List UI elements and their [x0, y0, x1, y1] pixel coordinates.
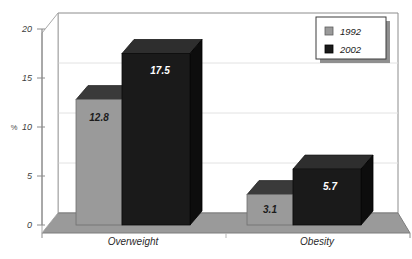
plot-left-wall — [42, 13, 58, 233]
value-label-obesity-1992: 3.1 — [263, 204, 277, 215]
value-label-overweight-1992: 12.8 — [89, 112, 109, 123]
bar-top-face — [293, 155, 373, 169]
y-tick-label-5: 5 — [27, 171, 33, 181]
legend-item-2002[interactable]: 2002 — [325, 44, 362, 55]
legend[interactable]: 1992 2002 — [316, 17, 390, 63]
bar-top-face — [122, 40, 202, 54]
bar-front-face — [122, 54, 190, 226]
value-label-overweight-2002: 17.5 — [150, 65, 170, 76]
legend-label-2002: 2002 — [339, 44, 362, 55]
legend-label-1992: 1992 — [340, 26, 362, 37]
y-axis-title: % — [11, 123, 18, 132]
legend-swatch-icon — [325, 45, 333, 53]
bar-front-face — [293, 169, 361, 225]
y-tick-label-15: 15 — [22, 73, 33, 83]
legend-item-1992[interactable]: 1992 — [325, 26, 362, 37]
chart-canvas: 20 15 10 5 0 % — [0, 0, 412, 259]
y-tick-label-10: 10 — [22, 122, 32, 132]
x-axis-ticks — [42, 233, 410, 238]
value-label-obesity-2002: 5.7 — [323, 181, 337, 192]
y-tick-label-0: 0 — [27, 220, 32, 230]
y-tick-label-20: 20 — [21, 24, 32, 34]
x-category-label-obesity: Obesity — [300, 236, 335, 247]
bar-chart-3d: 20 15 10 5 0 % — [0, 0, 412, 259]
bar-side-face — [190, 40, 202, 226]
legend-swatch-icon — [325, 27, 333, 35]
x-category-label-overweight: Overweight — [108, 236, 160, 247]
